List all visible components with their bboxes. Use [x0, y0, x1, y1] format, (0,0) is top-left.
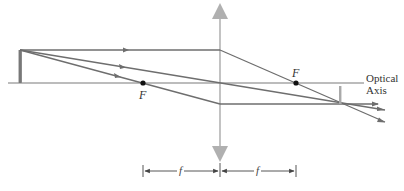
ray-direction-arrow-icon: [372, 102, 379, 107]
left-focal-label: F: [139, 89, 146, 101]
ray-direction-arrow-icon: [123, 48, 129, 53]
ray-direction-arrow-icon: [119, 64, 126, 69]
image-arrow: [339, 86, 342, 104]
ray-central: [20, 50, 385, 110]
ray-parallel: [20, 50, 385, 122]
optical-axis-label: Optical Axis: [366, 72, 398, 96]
left-focal-point: [140, 80, 145, 85]
optical-axis-label-line2: Axis: [366, 84, 398, 96]
lens-bottom-arrow-icon: [212, 146, 228, 162]
ray-diagram: [0, 0, 404, 191]
optical-axis-label-line1: Optical: [366, 72, 398, 84]
focal-length-left-label: f: [177, 165, 184, 176]
object-arrow: [19, 50, 23, 83]
focal-length-right-label: f: [254, 165, 261, 176]
lens-top-arrow-icon: [212, 3, 228, 19]
right-focal-label: F: [292, 67, 299, 79]
right-focal-point: [293, 80, 298, 85]
ray-direction-arrow-icon: [377, 118, 385, 123]
focal-length-dimension: [143, 163, 296, 177]
